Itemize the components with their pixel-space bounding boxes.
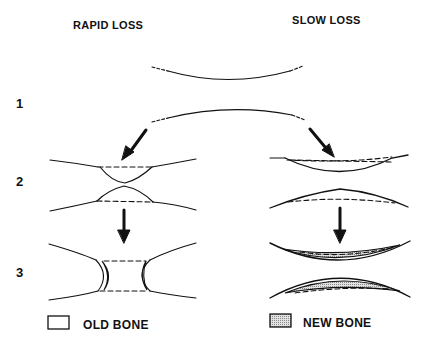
arrow-to-slow-loss xyxy=(310,129,334,157)
stage-2-slow-loss xyxy=(270,155,408,243)
legend-new-bone-swatch xyxy=(270,314,291,327)
stage-2-rapid-loss xyxy=(50,159,196,243)
stage-3-rapid-loss xyxy=(49,243,196,300)
bone-remodeling-diagram xyxy=(0,0,422,347)
stage-3-slow-loss xyxy=(270,241,410,298)
arrow-to-rapid-loss xyxy=(122,130,146,160)
legend-old-bone-swatch xyxy=(48,316,69,329)
stage-1-bone-ends xyxy=(152,66,305,122)
